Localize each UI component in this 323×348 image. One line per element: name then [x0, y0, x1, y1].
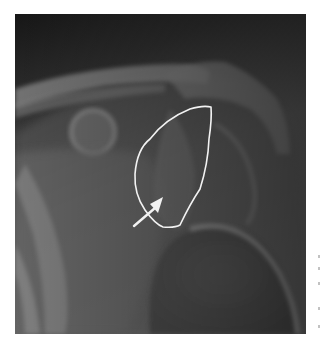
scan-artifacts [318, 255, 321, 335]
xray-illustration [15, 14, 306, 334]
xray-image [15, 14, 306, 334]
